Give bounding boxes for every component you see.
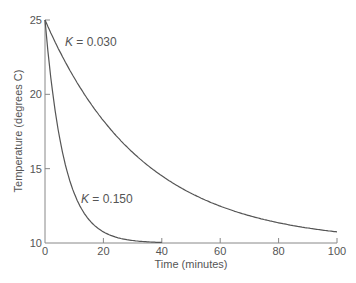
annotation-k-value: = 0.030 [73,35,117,49]
curve-series-1 [45,20,162,242]
temperature-decay-chart: 020406080100 10152025 K = 0.030 K = 0.15… [0,0,356,283]
x-tick-label: 0 [42,245,48,257]
x-axis-label: Time (minutes) [155,258,228,270]
curves [45,20,337,242]
x-tick-label: 40 [156,245,168,257]
x-tick-label: 80 [272,245,284,257]
x-tick-label: 60 [214,245,226,257]
x-tick-label: 20 [97,245,109,257]
y-axis-ticks: 10152025 [30,14,50,249]
annotation-k-0030: K = 0.030 [65,35,117,49]
x-tick-label: 100 [328,245,346,257]
y-tick-label: 20 [30,88,42,100]
y-tick-label: 10 [30,237,42,249]
y-tick-label: 25 [30,14,42,26]
axes [45,20,337,243]
annotation-k-0150: K = 0.150 [81,192,133,206]
annotation-k-value: = 0.150 [89,192,133,206]
x-axis-ticks: 020406080100 [42,238,346,257]
y-tick-label: 15 [30,163,42,175]
y-axis-label: Temperature (degrees C) [12,70,24,193]
